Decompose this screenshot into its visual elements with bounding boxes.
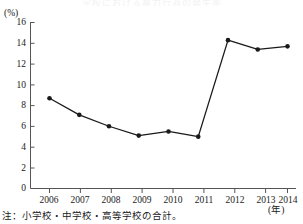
chart-figure: 学校における暴力行為の発生率 (%) (年) bbox=[0, 0, 303, 224]
y-tick-label: 8 bbox=[4, 100, 26, 110]
y-tick-label: 4 bbox=[4, 142, 26, 152]
y-tick-label: 16 bbox=[4, 17, 26, 27]
data-point bbox=[226, 38, 231, 43]
y-tick-label: 14 bbox=[4, 38, 26, 48]
y-tick-label: 0 bbox=[4, 183, 26, 193]
data-line bbox=[50, 40, 288, 136]
chart-footnote: 注：小学校・中学校・高等学校の合計。 bbox=[2, 210, 182, 222]
y-axis-ticks bbox=[31, 23, 35, 169]
data-markers bbox=[47, 38, 290, 139]
data-point bbox=[196, 134, 201, 139]
data-point bbox=[77, 113, 82, 118]
data-point bbox=[285, 44, 290, 49]
data-point bbox=[255, 47, 260, 52]
y-tick-label: 10 bbox=[4, 80, 26, 90]
x-tick-label: 2014 bbox=[268, 195, 303, 206]
y-tick-label: 6 bbox=[4, 121, 26, 131]
data-point bbox=[136, 133, 141, 138]
data-point bbox=[47, 96, 52, 101]
x-axis-ticks bbox=[50, 189, 288, 194]
y-tick-label: 12 bbox=[4, 59, 26, 69]
plot-area bbox=[0, 0, 303, 224]
data-point bbox=[166, 129, 171, 134]
chart-svg bbox=[0, 0, 303, 224]
data-point bbox=[107, 124, 112, 129]
y-tick-label: 2 bbox=[4, 163, 26, 173]
